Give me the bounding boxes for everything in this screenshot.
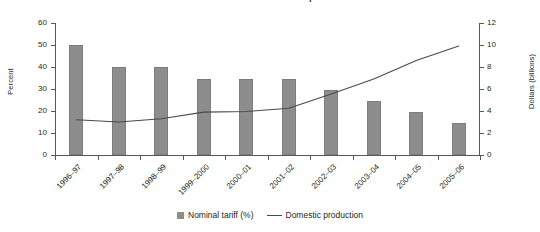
x-axis-tick	[55, 156, 56, 160]
x-axis-category-label: 2001–02	[258, 162, 295, 199]
x-axis-category-label: 1998–99	[131, 162, 168, 199]
y-axis-right-tick-label: 6	[487, 85, 511, 93]
y-axis-right-tick-label: 0	[487, 151, 511, 159]
legend-bar-swatch-icon	[177, 212, 184, 219]
chart-container: Nominal tariff and domestic production P…	[0, 0, 540, 232]
y-axis-left-tick-label: 40	[23, 63, 47, 71]
legend-item-domestic-production: Domestic production	[267, 210, 363, 220]
y-axis-left-title: Percent	[6, 52, 15, 112]
x-axis-category-label: 2003–04	[343, 162, 380, 199]
y-axis-right-tick-label: 10	[487, 41, 511, 49]
chart-title: Nominal tariff and domestic production	[0, 0, 540, 2]
x-axis-category-label: 2004–05	[386, 162, 423, 199]
x-axis-tick	[98, 156, 99, 160]
y-axis-right-tick	[480, 111, 484, 112]
legend-item-nominal-tariff: Nominal tariff (%)	[177, 210, 254, 220]
y-axis-left-tick-label: 30	[23, 85, 47, 93]
y-axis-right-title: Dollars (billions)	[527, 37, 536, 127]
y-axis-right-tick-label: 8	[487, 63, 511, 71]
x-axis-category-label: 1999–2000	[173, 162, 210, 199]
x-axis-category-label: 1997–98	[88, 162, 125, 199]
x-axis-tick	[225, 156, 226, 160]
x-axis-category-label: 2002–03	[301, 162, 338, 199]
legend-label-domestic-production: Domestic production	[286, 210, 363, 220]
x-axis-tick	[353, 156, 354, 160]
y-axis-right-tick	[480, 133, 484, 134]
y-axis-left-tick-label: 20	[23, 107, 47, 115]
y-axis-right-tick	[480, 45, 484, 46]
x-axis-tick	[438, 156, 439, 160]
chart-legend: Nominal tariff (%) Domestic production	[0, 210, 540, 220]
x-axis-category-label: 1996–97	[46, 162, 83, 199]
y-axis-right-tick	[480, 67, 484, 68]
x-axis-category-label: 2005–06	[428, 162, 465, 199]
y-axis-left-tick-label: 50	[23, 41, 47, 49]
plot-area: 0102030405060 024681012	[55, 23, 480, 156]
x-axis-tick	[183, 156, 184, 160]
y-axis-right-tick-label: 2	[487, 129, 511, 137]
x-axis-tick	[140, 156, 141, 160]
y-axis-left-tick-label: 10	[23, 129, 47, 137]
y-axis-left-tick-label: 60	[23, 19, 47, 27]
legend-line-swatch-icon	[267, 215, 282, 216]
y-axis-right-tick	[480, 89, 484, 90]
x-axis-tick	[480, 156, 481, 160]
x-axis-category-label: 2000–01	[216, 162, 253, 199]
x-axis-tick	[268, 156, 269, 160]
line-series-domestic-production	[55, 23, 480, 156]
y-axis-right-tick	[480, 23, 484, 24]
domestic-production-line	[76, 46, 459, 122]
y-axis-left-tick-label: 0	[23, 151, 47, 159]
x-axis-tick	[310, 156, 311, 160]
y-axis-right-tick-label: 12	[487, 19, 511, 27]
y-axis-right-tick-label: 4	[487, 107, 511, 115]
x-axis-tick	[395, 156, 396, 160]
legend-label-nominal-tariff: Nominal tariff (%)	[188, 210, 254, 220]
